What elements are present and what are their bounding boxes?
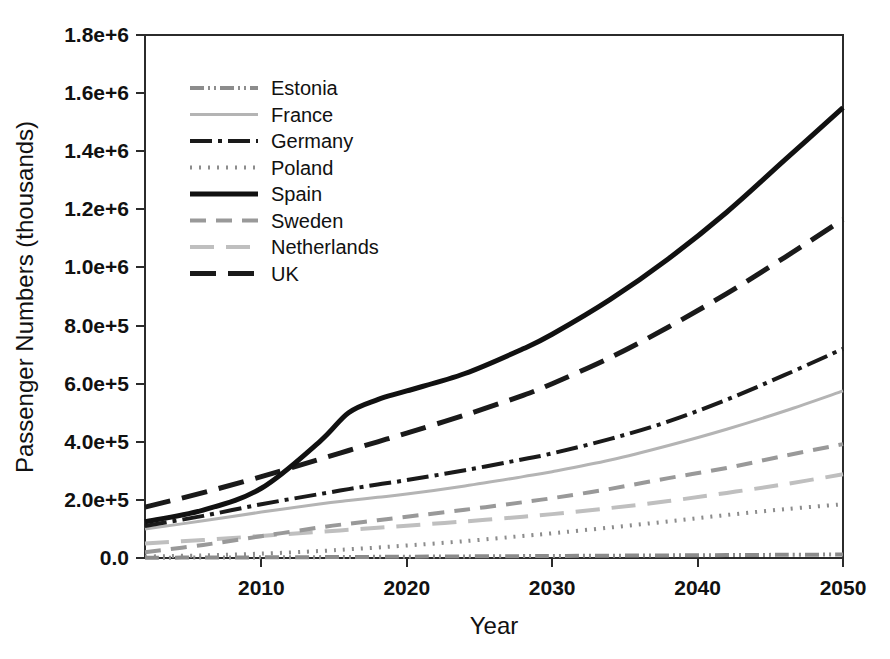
series-line-germany [145,349,843,526]
series-line-poland [145,504,843,556]
y-tick-label: 4.0e+5 [64,430,129,453]
x-axis-title: Year [470,612,519,639]
x-axis-tick-labels: 20102020203020402050 [238,576,866,599]
legend-label-germany: Germany [271,130,353,152]
legend-label-estonia: Estonia [271,77,339,99]
y-tick-label: 2.0e+5 [64,488,129,511]
legend-label-uk: UK [271,263,299,285]
x-tick-label: 2020 [383,576,430,599]
y-tick-label: 1.8e+6 [64,23,129,46]
legend-label-poland: Poland [271,157,333,179]
chart-figure: 0.02.0e+54.0e+56.0e+58.0e+51.0e+61.2e+61… [0,0,890,659]
x-tick-label: 2040 [674,576,721,599]
legend-label-france: France [271,104,333,126]
legend-label-sweden: Sweden [271,210,343,232]
x-tick-label: 2050 [820,576,867,599]
legend-label-spain: Spain [271,183,322,205]
y-tick-label: 1.6e+6 [64,81,129,104]
line-chart: 0.02.0e+54.0e+56.0e+58.0e+51.0e+61.2e+61… [0,0,890,659]
series-line-spain [145,108,843,522]
y-tick-label: 1.4e+6 [64,139,129,162]
x-tick-label: 2010 [238,576,285,599]
y-tick-label: 6.0e+5 [64,372,129,395]
data-series-group [145,108,843,558]
chart-legend: EstoniaFranceGermanyPolandSpainSwedenNet… [190,77,379,285]
series-line-sweden [145,444,843,552]
y-axis-title: Passenger Numbers (thousands) [11,121,38,473]
y-tick-label: 0.0 [100,546,129,569]
y-tick-label: 1.2e+6 [64,197,129,220]
y-axis-tick-labels: 0.02.0e+54.0e+56.0e+58.0e+51.0e+61.2e+61… [64,23,129,569]
x-tick-label: 2030 [529,576,576,599]
y-tick-label: 1.0e+6 [64,255,129,278]
legend-label-netherlands: Netherlands [271,236,379,258]
series-line-netherlands [145,474,843,543]
y-tick-label: 8.0e+5 [64,314,129,337]
